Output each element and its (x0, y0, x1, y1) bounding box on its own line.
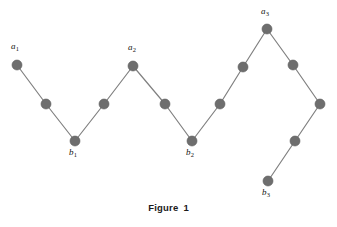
graph-node (215, 99, 225, 109)
graph-node (238, 62, 248, 72)
graph-diagram (0, 0, 337, 227)
graph-node-a2 (128, 61, 138, 71)
graph-edge (295, 104, 320, 141)
graph-node (99, 99, 109, 109)
figure-caption: Figure1 (0, 202, 337, 213)
node-label-subscript: 3 (266, 10, 269, 17)
graph-edge (133, 66, 165, 104)
node-label-a3: a3 (261, 7, 269, 16)
node-label-b1: b1 (69, 148, 77, 157)
graph-node (41, 99, 51, 109)
graph-node-b2 (187, 136, 197, 146)
graph-edge (192, 104, 220, 141)
node-label-subscript: 2 (191, 151, 194, 158)
graph-edge (243, 29, 267, 67)
node-label-b2: b2 (186, 148, 194, 157)
node-label-a2: a2 (128, 43, 136, 52)
graph-edge (267, 29, 293, 65)
node-label-a1: a1 (11, 42, 19, 51)
graph-node-b3 (263, 176, 273, 186)
node-label-base: a (11, 41, 16, 51)
node-label-base: b (186, 147, 191, 157)
graph-node (290, 136, 300, 146)
graph-edge (220, 67, 243, 104)
graph-edge (293, 65, 320, 104)
graph-node-a1 (12, 60, 22, 70)
node-label-subscript: 1 (74, 151, 77, 158)
graph-edge (104, 66, 133, 104)
node-label-base: b (69, 147, 74, 157)
graph-node (288, 60, 298, 70)
node-label-b3: b3 (262, 188, 270, 197)
nodes-group (12, 24, 325, 186)
graph-node-b1 (70, 136, 80, 146)
figure-caption-number: 1 (183, 202, 188, 213)
graph-edge (75, 104, 104, 141)
node-label-base: a (261, 6, 266, 16)
node-label-subscript: 2 (133, 46, 136, 53)
graph-node (160, 99, 170, 109)
graph-edge (17, 65, 46, 104)
node-label-base: b (262, 187, 267, 197)
graph-node-a3 (262, 24, 272, 34)
node-label-subscript: 3 (267, 191, 270, 198)
figure-container: a1b1a2b2a3b3 Figure1 (0, 0, 337, 227)
graph-edge (268, 141, 295, 181)
node-label-base: a (128, 42, 133, 52)
graph-node (315, 99, 325, 109)
figure-caption-label: Figure (148, 202, 178, 213)
node-label-subscript: 1 (16, 45, 19, 52)
graph-edge (165, 104, 192, 141)
graph-edge (46, 104, 75, 141)
